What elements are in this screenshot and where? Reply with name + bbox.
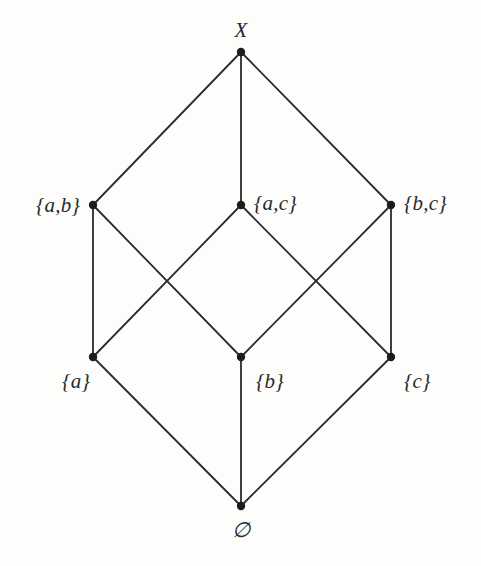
edge-a-empty: [93, 357, 241, 506]
node-b[interactable]: [237, 353, 245, 361]
node-X[interactable]: [237, 48, 245, 56]
node-label-b: {b}: [256, 371, 284, 392]
node-layer: [89, 48, 395, 510]
node-label-nil: ∅: [232, 520, 250, 541]
node-nil[interactable]: [237, 502, 245, 510]
node-label-ab: {a,b}: [36, 195, 80, 216]
node-ab[interactable]: [89, 201, 97, 209]
node-c[interactable]: [387, 353, 395, 361]
node-a[interactable]: [89, 353, 97, 361]
edge-layer: [93, 52, 391, 506]
node-bc[interactable]: [387, 201, 395, 209]
node-label-a: {a}: [62, 371, 90, 392]
node-label-c: {c}: [404, 371, 431, 392]
hasse-diagram-canvas: X{a,b}{a,c}{b,c}{a}{b}{c}∅: [0, 0, 481, 566]
node-label-bc: {b,c}: [404, 193, 447, 214]
edge-x-ab: [93, 52, 241, 205]
node-ac[interactable]: [237, 201, 245, 209]
node-label-ac: {a,c}: [254, 193, 297, 214]
node-label-X: X: [234, 20, 247, 41]
diagram-svg: [0, 0, 481, 566]
edge-x-bc: [241, 52, 391, 205]
